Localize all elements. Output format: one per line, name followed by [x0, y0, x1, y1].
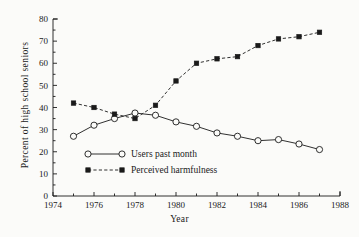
data-point-marker	[214, 130, 220, 136]
data-point-marker	[194, 61, 198, 65]
legend-marker	[119, 151, 125, 157]
data-point-marker	[70, 133, 76, 139]
data-point-marker	[193, 123, 199, 129]
legend-marker	[85, 151, 91, 157]
legend-marker	[86, 168, 90, 172]
data-point-marker	[215, 57, 219, 61]
y-tick-label: 70	[39, 36, 49, 46]
y-tick-label: 40	[39, 103, 49, 113]
x-tick-label: 1980	[167, 200, 186, 210]
y-tick-label: 60	[39, 58, 49, 68]
legend-label-1: Perceived harmfulness	[131, 165, 218, 175]
data-point-marker	[235, 54, 239, 58]
x-tick-label: 1984	[249, 200, 268, 210]
data-point-marker	[256, 43, 260, 47]
x-tick-label: 1974	[44, 200, 63, 210]
data-point-marker	[153, 103, 157, 107]
line-chart-plot: 01020304050607080 1974197619781980198219…	[0, 0, 359, 237]
data-point-marker	[317, 30, 321, 34]
data-point-marker	[112, 112, 116, 116]
data-point-marker	[133, 116, 137, 120]
data-point-marker	[132, 110, 138, 116]
x-tick-label: 1986	[290, 200, 309, 210]
x-tick-label: 1976	[85, 200, 104, 210]
y-tick-label: 50	[39, 81, 49, 91]
data-series-group	[70, 30, 322, 153]
data-point-marker	[296, 141, 302, 147]
x-tick-label: 1978	[126, 200, 145, 210]
x-tick-label: 1988	[331, 200, 350, 210]
y-axis-ticks: 01020304050607080	[39, 14, 57, 201]
chart-container: 01020304050607080 1974197619781980198219…	[0, 0, 359, 237]
data-point-marker	[152, 112, 158, 118]
y-tick-label: 10	[39, 169, 49, 179]
series-line-1	[74, 32, 320, 118]
legend-label-0: Users past month	[131, 149, 197, 159]
y-tick-label: 20	[39, 147, 49, 157]
data-point-marker	[71, 101, 75, 105]
data-point-marker	[255, 138, 261, 144]
data-point-marker	[91, 122, 97, 128]
data-point-marker	[234, 133, 240, 139]
x-tick-label: 1982	[208, 200, 226, 210]
data-point-marker	[275, 136, 281, 142]
y-tick-label: 30	[39, 125, 49, 135]
data-point-marker	[316, 146, 322, 152]
y-axis-title: Percent of high school seniors	[20, 35, 30, 175]
x-axis-title: Year	[0, 214, 359, 224]
data-point-marker	[174, 79, 178, 83]
chart-legend: Users past monthPerceived harmfulness	[85, 149, 218, 175]
data-point-marker	[92, 105, 96, 109]
series-line-0	[74, 113, 320, 150]
data-point-marker	[276, 37, 280, 41]
data-point-marker	[297, 35, 301, 39]
legend-marker	[120, 168, 124, 172]
y-tick-label: 80	[39, 14, 49, 24]
x-axis-ticks: 19741976197819801982198419861988	[44, 192, 350, 210]
data-point-marker	[173, 119, 179, 125]
